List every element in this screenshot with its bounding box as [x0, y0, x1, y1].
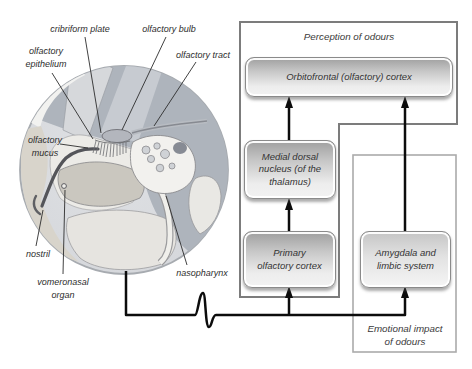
box-text: Amygdala and: [375, 247, 436, 260]
figure-olfactory-system: cribriform plate olfactory bulb olfactor…: [0, 0, 472, 369]
box-text: Medial dorsal: [259, 151, 321, 164]
box-medial-dorsal-nucleus: Medial dorsal nucleus (of the thalamus): [244, 140, 336, 199]
box-text: limbic system: [375, 260, 436, 273]
group-title-text: Emotional impact: [353, 323, 457, 336]
group-title-text: of odours: [353, 336, 457, 349]
emotional-group-title: Emotional impact of odours: [353, 323, 457, 348]
box-orbitofrontal-cortex: Orbitofrontal (olfactory) cortex: [245, 57, 453, 97]
ear-region: [189, 176, 221, 234]
arrowhead-to-orbito-left: [285, 96, 293, 108]
arrowhead-to-medial: [285, 198, 293, 210]
arrowhead-to-orbito-right: [401, 96, 409, 108]
dark-bone-blob: [173, 142, 187, 154]
box-text: Orbitofrontal (olfactory) cortex: [286, 71, 412, 84]
group-title-text: Perception of odours: [249, 31, 449, 44]
box-primary-olfactory-cortex: Primary olfactory cortex: [243, 231, 336, 288]
box-text: olfactory cortex: [257, 260, 321, 273]
box-text: thalamus): [259, 176, 321, 189]
hard-palate: [58, 162, 144, 206]
olfactory-bulb-shape: [102, 130, 132, 143]
head-cross-section-illustration: [20, 37, 228, 274]
box-text: nucleus (of the: [259, 163, 321, 176]
vomeronasal-organ-shape: [62, 184, 67, 189]
diagram-art: [0, 0, 472, 369]
box-text: Primary: [257, 247, 321, 260]
box-amygdala-limbic-system: Amygdala and limbic system: [360, 231, 451, 288]
perception-group-title: Perception of odours: [249, 31, 449, 44]
